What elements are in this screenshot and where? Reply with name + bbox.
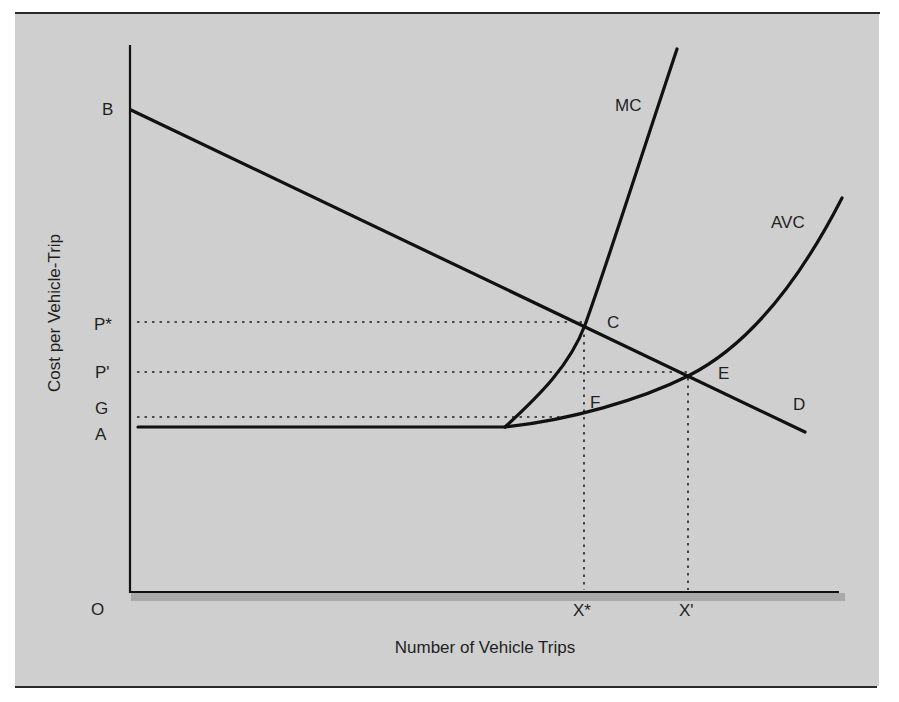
label-d: D [793,395,805,414]
cost-diagram: B P* P' G A O X* X' MC AVC C E F D Numbe… [0,0,899,702]
label-mc: MC [615,96,641,115]
label-b: B [102,100,113,119]
label-c: C [607,313,619,332]
x-axis-title: Number of Vehicle Trips [395,638,575,657]
label-e: E [718,364,729,383]
guide-lines [137,322,688,590]
label-x-prime: X' [679,601,694,620]
label-f: F [590,393,600,412]
label-g: G [95,399,108,418]
label-p-star: P* [94,315,112,334]
demand-curve [131,110,805,432]
label-avc: AVC [771,213,805,232]
y-axis-title: Cost per Vehicle-Trip [45,234,64,392]
label-a: A [95,425,107,444]
label-x-star: X* [573,601,591,620]
label-origin: O [91,600,104,619]
mc-curve [505,49,677,427]
x-axis-shadow [131,593,845,601]
label-p-prime: P' [95,363,110,382]
